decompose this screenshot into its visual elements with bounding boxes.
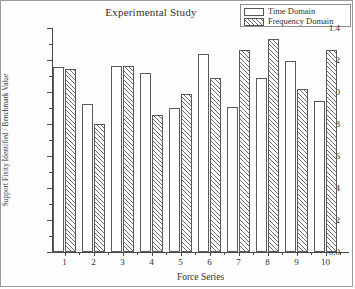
- x-tick-label: 7: [236, 257, 241, 267]
- bar-frequency-domain: [181, 94, 192, 252]
- x-tick-minor: [79, 252, 80, 255]
- bar-frequency-domain: [94, 124, 105, 252]
- bar-frequency-domain: [268, 39, 279, 252]
- x-tick-minor: [166, 252, 167, 255]
- x-tick: [326, 252, 327, 256]
- y-tick: [47, 220, 52, 221]
- x-tick-minor: [137, 252, 138, 255]
- legend-label-time-domain: Time Domain: [268, 7, 315, 16]
- bar-time-domain: [314, 101, 325, 252]
- bar-frequency-domain: [297, 89, 308, 252]
- x-tick-label: 3: [120, 257, 125, 267]
- y-tick-minor: [49, 44, 52, 45]
- x-tick-minor: [311, 252, 312, 255]
- bar-time-domain: [169, 108, 180, 252]
- y-tick-minor: [49, 172, 52, 173]
- legend-label-frequency-domain: Frequency Domain: [268, 17, 333, 26]
- y-tick: [47, 188, 52, 189]
- x-tick: [94, 252, 95, 256]
- y-tick-minor: [49, 236, 52, 237]
- bar-frequency-domain: [326, 50, 337, 252]
- x-tick-minor: [224, 252, 225, 255]
- y-tick: [47, 60, 52, 61]
- x-tick-minor: [253, 252, 254, 255]
- y-tick: [47, 28, 52, 29]
- x-tick: [210, 252, 211, 256]
- x-tick-label: 1: [62, 257, 67, 267]
- y-tick-minor: [49, 76, 52, 77]
- bar-frequency-domain: [65, 69, 76, 252]
- bar-frequency-domain: [239, 50, 250, 252]
- x-tick-label: 8: [265, 257, 270, 267]
- bar-time-domain: [256, 78, 267, 252]
- bar-time-domain: [140, 73, 151, 252]
- x-tick-minor: [108, 252, 109, 255]
- y-tick: [47, 156, 52, 157]
- plot-area: 0.00.20.40.60.81.01.21.412345678910: [52, 28, 348, 252]
- legend-swatch-open-icon: [244, 8, 264, 16]
- x-axis-title: Force Series: [52, 272, 349, 282]
- y-tick: [47, 124, 52, 125]
- y-tick-minor: [49, 204, 52, 205]
- x-tick: [297, 252, 298, 256]
- x-tick-minor: [282, 252, 283, 255]
- legend-swatch-hatched-icon: [244, 18, 264, 26]
- x-tick: [181, 252, 182, 256]
- x-tick-label: 5: [178, 257, 183, 267]
- y-tick: [47, 92, 52, 93]
- y-axis-title: Support Fixity Identified / Benchmark Va…: [0, 28, 13, 252]
- x-tick: [65, 252, 66, 256]
- y-axis-title-text: Support Fixity Identified / Benchmark Va…: [2, 74, 10, 207]
- x-tick-label: 4: [149, 257, 154, 267]
- x-tick: [123, 252, 124, 256]
- x-tick: [152, 252, 153, 256]
- bar-frequency-domain: [123, 66, 134, 252]
- bar-time-domain: [198, 54, 209, 252]
- bar-time-domain: [53, 67, 64, 252]
- x-tick-label: 9: [294, 257, 299, 267]
- y-tick-minor: [49, 108, 52, 109]
- bar-time-domain: [82, 104, 93, 252]
- figure-frame: Experimental Study Time Domain Frequency…: [0, 0, 353, 287]
- x-tick-label: 6: [207, 257, 212, 267]
- bar-frequency-domain: [210, 78, 221, 252]
- x-tick: [239, 252, 240, 256]
- y-tick-minor: [49, 140, 52, 141]
- x-tick-minor: [195, 252, 196, 255]
- bar-time-domain: [227, 107, 238, 252]
- bar-frequency-domain: [152, 115, 163, 252]
- x-tick-label: 2: [91, 257, 96, 267]
- bar-time-domain: [111, 66, 122, 252]
- x-tick: [268, 252, 269, 256]
- x-tick-minor: [340, 252, 341, 255]
- x-tick-label: 10: [321, 257, 330, 267]
- legend-item-time-domain: Time Domain: [244, 7, 347, 16]
- y-tick-label: 1.4: [329, 23, 340, 33]
- x-axis-line: [52, 252, 349, 253]
- bar-time-domain: [285, 61, 296, 252]
- y-tick: [47, 252, 52, 253]
